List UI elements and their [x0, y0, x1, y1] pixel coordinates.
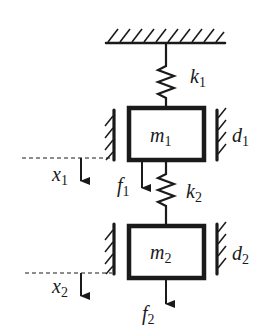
damper-d2-left-wall	[105, 224, 114, 274]
label-x1: x1	[51, 163, 68, 188]
damper-d1-left-wall	[105, 110, 114, 160]
label-f2: f2	[142, 302, 155, 327]
label-f1: f1	[117, 174, 130, 199]
label-x2: x2	[51, 275, 68, 300]
spring-k2	[158, 160, 174, 226]
spring-k1	[158, 43, 174, 108]
label-k1: k1	[190, 65, 206, 90]
label-d1: d1	[232, 124, 249, 149]
label-d2: d2	[232, 242, 249, 267]
label-k2: k2	[186, 180, 202, 205]
spring-mass-damper-diagram: k1 m1 d1 x1 f1 k2 m2	[0, 0, 268, 335]
ceiling-support	[106, 29, 225, 43]
damper-d2-right-wall	[217, 222, 226, 274]
damper-d1-right-wall	[217, 108, 226, 160]
